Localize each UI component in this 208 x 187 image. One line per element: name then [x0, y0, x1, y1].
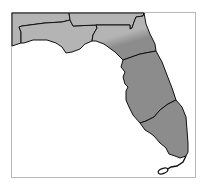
florida-map	[0, 0, 208, 187]
key-island	[157, 167, 168, 175]
